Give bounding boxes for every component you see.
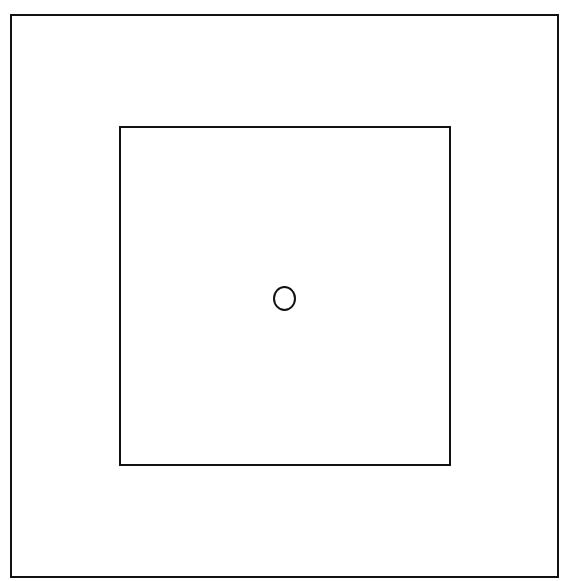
center-circle bbox=[273, 286, 296, 311]
